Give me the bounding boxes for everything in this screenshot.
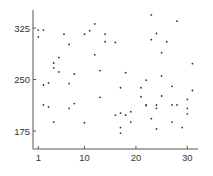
data-point [73,73,75,75]
data-point [58,57,60,59]
data-point [130,111,132,113]
data-point [37,36,39,38]
data-point [166,41,168,43]
data-point [37,29,39,31]
data-point [94,23,96,25]
data-point [171,121,173,123]
data-point [53,62,55,64]
data-point [186,99,188,101]
data-point [181,127,183,129]
data-point [130,121,132,123]
data-point [186,113,188,115]
axes [33,10,198,149]
data-point [171,104,173,106]
data-point [161,95,163,97]
data-points [37,14,193,134]
data-point [94,54,96,56]
data-point [99,96,101,98]
data-point [156,128,158,130]
data-point [140,96,142,98]
data-point [43,84,45,86]
data-point [68,44,70,46]
x-tick-label: 10 [79,152,90,163]
data-point [43,29,45,31]
data-point [89,30,91,32]
data-point [125,72,127,74]
data-point [120,132,122,134]
data-point [176,20,178,22]
data-point [84,122,86,124]
data-point [63,33,65,35]
data-point [120,127,122,129]
x-tick-label: 20 [131,152,142,163]
data-point [161,52,163,54]
data-point [150,14,152,16]
data-point [150,118,152,120]
y-tick-label: 325 [14,23,30,34]
data-point [156,104,158,106]
data-point [120,87,122,89]
data-point [192,63,194,65]
data-point [114,114,116,116]
data-point [192,90,194,92]
data-point [145,79,147,81]
data-point [171,85,173,87]
data-point [140,87,142,89]
x-tick-label: 30 [182,152,193,163]
data-point [145,105,147,107]
data-point [73,103,75,105]
data-point [53,121,55,123]
data-point [48,106,50,108]
data-point [150,39,152,41]
data-point [156,33,158,35]
data-point [99,70,101,72]
data-point [176,104,178,106]
data-point [161,75,163,77]
data-point [186,107,188,109]
data-point [104,33,106,35]
data-point [68,83,70,85]
x-tick-label: 1 [36,152,41,163]
data-point [84,33,86,35]
scatter-chart: 1102030 175250325 [0,0,213,176]
data-point [53,67,55,69]
data-point [156,107,158,109]
data-point [43,104,45,106]
data-point [114,42,116,44]
y-tick-label: 175 [14,126,30,137]
data-point [68,107,70,109]
data-point [104,41,106,43]
data-point [120,112,122,114]
data-point [58,71,60,73]
data-point [48,82,50,84]
data-point [125,114,127,116]
y-tick-label: 250 [14,74,30,85]
